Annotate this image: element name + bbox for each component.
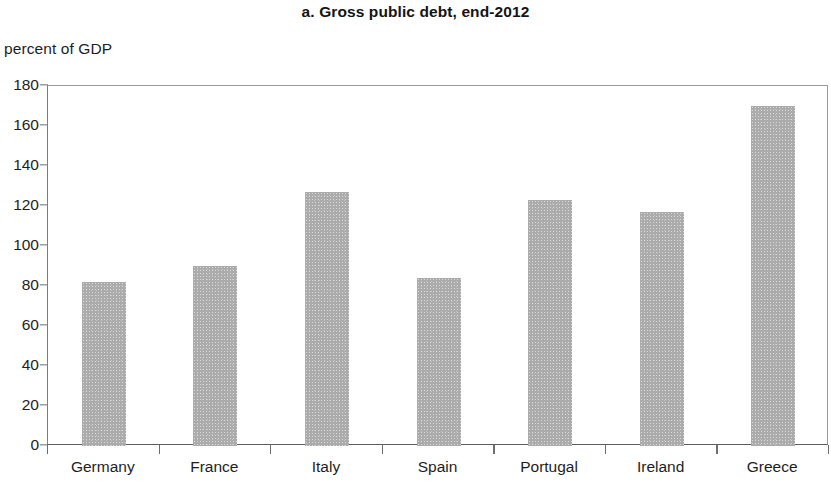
bar-france [193,266,237,446]
y-axis-title: percent of GDP [4,40,112,58]
bars-layer [48,86,829,446]
y-axis-tick-label: 140 [0,156,39,174]
x-axis-label-germany: Germany [71,458,135,476]
y-axis-tick-label: 20 [0,396,39,414]
plot-area [47,85,828,445]
x-axis-label-portugal: Portugal [520,458,578,476]
x-axis-label-france: France [190,458,238,476]
y-axis-tick-label: 100 [0,236,39,254]
x-axis-label-italy: Italy [312,458,340,476]
x-axis-label-ireland: Ireland [637,458,684,476]
x-axis-tick-mark [159,445,160,454]
chart-title: a. Gross public debt, end-2012 [0,3,831,21]
bar-italy [305,192,349,446]
bar-spain [417,278,461,446]
x-axis-tick-mark [716,445,717,454]
y-axis-tick-label: 160 [0,116,39,134]
bar-greece [751,106,795,446]
y-axis-tick-label: 180 [0,76,39,94]
bar-germany [82,282,126,446]
bar-ireland [640,212,684,446]
x-axis-label-greece: Greece [747,458,798,476]
x-axis-tick-mark [270,445,271,454]
y-axis-tick-label: 120 [0,196,39,214]
x-axis-tick-mark [382,445,383,454]
y-axis-tick-label: 40 [0,356,39,374]
y-axis-tick-label: 80 [0,276,39,294]
y-axis-tick-label: 60 [0,316,39,334]
chart-figure: a. Gross public debt, end-2012 percent o… [0,0,831,488]
bar-portugal [528,200,572,446]
x-axis-label-spain: Spain [418,458,458,476]
y-axis-tick-label: 0 [0,436,39,454]
x-axis-tick-mark [47,445,48,454]
x-axis-tick-mark [493,445,494,454]
x-axis-tick-mark [828,445,829,454]
x-axis-tick-mark [605,445,606,454]
